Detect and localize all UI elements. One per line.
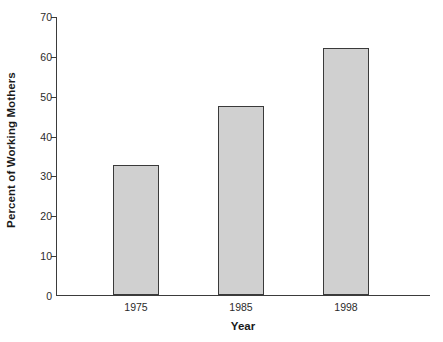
x-axis-tick-label: 1998 <box>334 302 357 313</box>
y-axis-tick-label: 50 <box>40 91 52 102</box>
plot-area: 010203040506070 197519851998 <box>56 17 430 296</box>
bar-chart: Percent of Working Mothers 0102030405060… <box>0 0 443 342</box>
bar <box>323 48 369 295</box>
y-axis-line <box>56 17 57 296</box>
bar <box>218 106 264 295</box>
bar <box>113 165 159 295</box>
y-axis-tick-label: 10 <box>40 251 52 262</box>
y-axis-tick-label: 60 <box>40 52 52 63</box>
x-axis-line <box>56 295 430 296</box>
x-axis-tick-label: 1985 <box>229 302 252 313</box>
y-axis-tick-label: 20 <box>40 211 52 222</box>
y-axis-title: Percent of Working Mothers <box>0 0 22 300</box>
x-axis-tick-label: 1975 <box>124 302 147 313</box>
y-axis-tick-label: 30 <box>40 171 52 182</box>
y-axis-tick-label: 70 <box>40 12 52 23</box>
y-axis-tick-label: 0 <box>46 291 52 302</box>
x-axis-title: Year <box>56 320 430 332</box>
y-axis-tick-label: 40 <box>40 131 52 142</box>
